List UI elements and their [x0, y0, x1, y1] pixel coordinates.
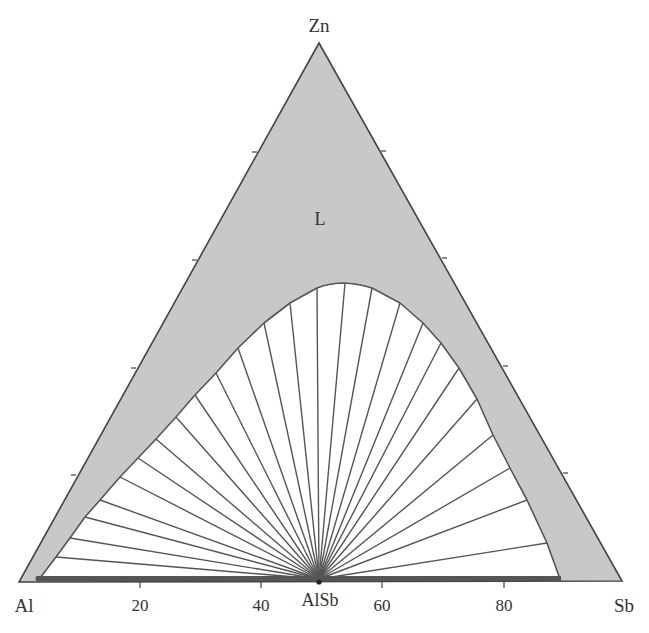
tick-label-80: 80 — [496, 596, 513, 615]
alsb-point — [316, 579, 321, 584]
ternary-phase-diagram: Zn Al Sb AlSb L 20 40 60 80 — [0, 0, 649, 633]
tick-label-60: 60 — [374, 596, 391, 615]
alsb-base-bar — [36, 576, 561, 581]
vertex-label-zn: Zn — [308, 15, 330, 36]
region-label-l: L — [315, 209, 326, 229]
vertex-label-sb: Sb — [614, 595, 634, 616]
base-ticks — [140, 582, 504, 588]
compound-label-alsb: AlSb — [301, 590, 338, 610]
vertex-label-al: Al — [15, 595, 34, 616]
tick-label-20: 20 — [132, 596, 149, 615]
tick-label-40: 40 — [253, 596, 270, 615]
